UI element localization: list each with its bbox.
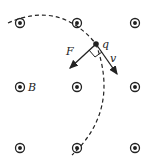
field-symbol-icon (73, 83, 82, 92)
field-label: B (27, 81, 36, 94)
field-symbol-icon (73, 144, 82, 153)
field-symbol-icon (131, 144, 140, 153)
trajectory-arc (8, 15, 104, 155)
magnetic-field-diagram: q F v B (0, 0, 149, 166)
field-symbol-icon (131, 19, 140, 28)
charge-label: q (102, 38, 109, 51)
right-angle-mark (89, 50, 102, 57)
force-arrow (70, 44, 96, 68)
velocity-label: v (110, 52, 117, 65)
force-label: F (65, 45, 74, 58)
field-symbol-icon (16, 144, 25, 153)
field-symbol-icon (16, 83, 25, 92)
field-symbol-icon (131, 83, 140, 92)
